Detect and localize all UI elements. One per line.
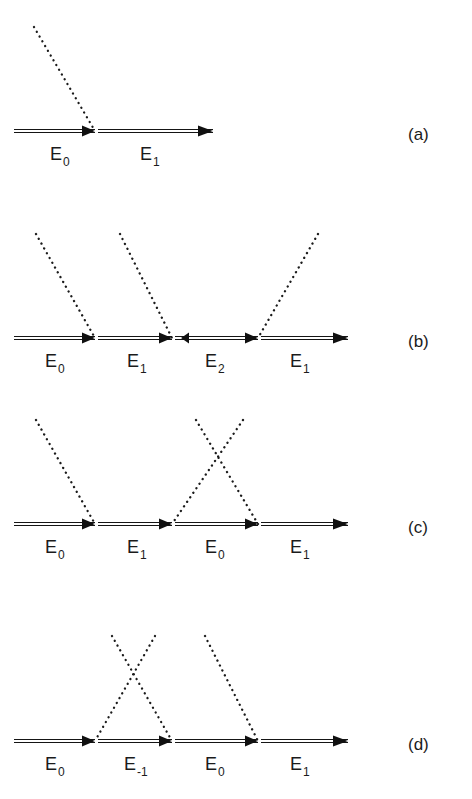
energy-label-subscript-2: -1	[137, 765, 148, 779]
energy-label-1: E	[45, 754, 57, 774]
arrowhead-vertex-1	[82, 735, 95, 746]
photon-line-1	[95, 636, 155, 741]
arrowhead-reverse-2	[181, 332, 189, 343]
energy-label-subscript-2: 1	[140, 548, 147, 562]
arrowhead-vertex-3	[245, 735, 258, 746]
energy-label-4: E	[290, 754, 302, 774]
energy-label-3: E	[205, 537, 217, 557]
energy-label-subscript-2: 1	[153, 155, 160, 169]
photon-line-1	[36, 234, 95, 338]
energy-label-subscript-3: 0	[218, 765, 225, 779]
energy-label-2: E	[127, 351, 139, 371]
energy-label-3: E	[205, 351, 217, 371]
figure-canvas: E0E1(a)E0E1E2E1(b)E0E1E0E1(c)E0E-1E0E1(d…	[0, 0, 472, 799]
arrowhead-end	[198, 125, 213, 136]
energy-label-subscript-1: 0	[58, 765, 65, 779]
energy-label-subscript-1: 0	[58, 548, 65, 562]
panel-d: E0E-1E0E1(d)	[14, 636, 429, 779]
energy-label-1: E	[45, 351, 57, 371]
photon-line-2	[112, 636, 172, 741]
energy-label-1: E	[50, 144, 62, 164]
energy-label-1: E	[45, 537, 57, 557]
arrowhead-vertex-3	[245, 518, 258, 529]
arrowhead-vertex-2	[159, 518, 172, 529]
segment-2	[98, 129, 213, 133]
panel-tag-c: (c)	[408, 518, 428, 537]
photon-line-2	[120, 234, 172, 338]
photon-line-1	[34, 27, 95, 131]
panel-c: E0E1E0E1(c)	[14, 420, 428, 562]
photon-line-1	[36, 420, 95, 524]
panel-tag-d: (d)	[408, 735, 429, 754]
energy-label-subscript-2: 1	[140, 362, 147, 376]
energy-label-4: E	[290, 351, 302, 371]
arrowhead-vertex-2	[159, 332, 172, 343]
photon-line-3	[205, 636, 258, 741]
energy-label-subscript-4: 1	[303, 362, 310, 376]
energy-label-4: E	[290, 537, 302, 557]
energy-label-subscript-3: 0	[218, 548, 225, 562]
energy-label-3: E	[205, 754, 217, 774]
photon-line-3	[196, 420, 258, 524]
arrowhead-end	[333, 332, 348, 343]
energy-label-subscript-4: 1	[303, 765, 310, 779]
energy-label-subscript-1: 0	[58, 362, 65, 376]
energy-label-2: E	[124, 754, 136, 774]
panel-tag-a: (a)	[408, 125, 429, 144]
arrowhead-vertex-3	[245, 332, 258, 343]
arrowhead-end	[333, 518, 348, 529]
photon-line-2	[172, 420, 243, 524]
energy-label-subscript-3: 2	[218, 362, 225, 376]
energy-label-subscript-1: 0	[63, 155, 70, 169]
energy-label-2: E	[140, 144, 152, 164]
panel-b: E0E1E2E1(b)	[14, 234, 429, 376]
panel-tag-b: (b)	[408, 332, 429, 351]
energy-label-2: E	[127, 537, 139, 557]
diagram-svg: E0E1(a)E0E1E2E1(b)E0E1E0E1(c)E0E-1E0E1(d…	[0, 0, 472, 799]
energy-label-subscript-4: 1	[303, 548, 310, 562]
panel-a: E0E1(a)	[14, 27, 429, 169]
photon-line-3	[258, 234, 318, 338]
arrowhead-end	[333, 735, 348, 746]
